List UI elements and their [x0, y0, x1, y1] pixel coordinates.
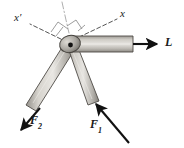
force-2-label: F2 [30, 114, 42, 129]
axis-x-text: x [120, 7, 125, 19]
figure-container: x′ x L F1 F2 [0, 0, 184, 148]
force-2-subscript: 2 [38, 122, 42, 131]
force-1-subscript: 1 [98, 126, 102, 135]
load-label: L [165, 36, 172, 48]
vertical-reference-line [62, 2, 69, 33]
axis-x-prime-text: x′ [14, 11, 21, 23]
load-text: L [165, 35, 172, 49]
force-1-label: F1 [90, 118, 102, 133]
force-2-symbol: F [30, 113, 38, 127]
axis-x-prime-label: x′ [14, 12, 21, 23]
force-1-symbol: F [90, 117, 98, 131]
axis-x-label: x [120, 8, 125, 19]
